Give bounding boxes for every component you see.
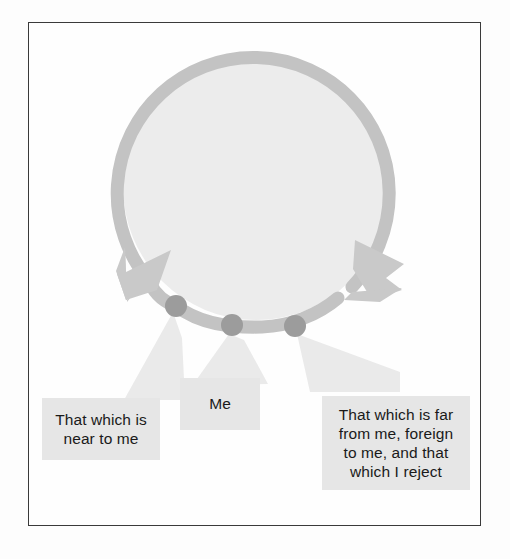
callout-label-near: That which is near to me [42, 398, 160, 460]
point-dot-far[interactable] [284, 315, 306, 337]
callout-far-line-4: which I reject [350, 463, 442, 480]
callout-far-line-1: That which is far [339, 406, 454, 423]
callout-leader-far [297, 334, 400, 392]
point-dot-me[interactable] [221, 314, 243, 336]
callout-far-line-3: to me, and that [344, 444, 449, 461]
callout-label-far: That which is far from me, foreign to me… [322, 396, 470, 490]
callout-far-line-2: from me, foreign [339, 425, 453, 442]
figure-container: That which is near to me Me That which i… [0, 0, 510, 559]
callout-near-line-1: That which is [55, 411, 147, 428]
callout-label-me: Me [180, 378, 260, 430]
callout-near-line-2: near to me [63, 430, 138, 447]
point-dot-near[interactable] [165, 295, 187, 317]
callout-leader-near [124, 312, 185, 400]
callout-me-line-1: Me [209, 394, 231, 413]
